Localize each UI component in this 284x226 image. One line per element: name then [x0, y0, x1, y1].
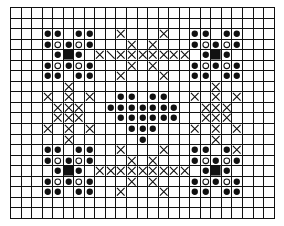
grid-cell: [21, 7, 32, 18]
grid-cell: [221, 70, 232, 81]
grid-cell: [31, 134, 42, 145]
grid-cell: [147, 28, 158, 39]
grid-cell: [168, 81, 179, 92]
grid-cell: [263, 176, 274, 187]
grid-cell: [126, 60, 137, 71]
grid-cell: [126, 39, 137, 50]
grid-cell: [210, 28, 221, 39]
grid-cell: [210, 102, 221, 113]
grid-cell: [189, 112, 200, 123]
grid-cell: [168, 102, 179, 113]
grid-cell: [147, 70, 158, 81]
grid-cell: [263, 165, 274, 176]
grid-cell: [84, 134, 95, 145]
grid-cell: [73, 28, 84, 39]
grid-cell: [210, 60, 221, 71]
grid-cell: [94, 102, 105, 113]
grid-cell: [42, 70, 53, 81]
grid-cell: [221, 112, 232, 123]
grid-cell: [84, 28, 95, 39]
grid-cell: [221, 60, 232, 71]
grid-cell: [221, 49, 232, 60]
grid-cell: [137, 81, 148, 92]
grid-cell: [10, 60, 21, 71]
grid-cell: [84, 91, 95, 102]
grid-cell: [126, 7, 137, 18]
grid-cell: [147, 39, 158, 50]
grid-cell: [189, 155, 200, 166]
grid-cell: [21, 155, 32, 166]
grid-cell: [84, 60, 95, 71]
grid-cell: [242, 91, 253, 102]
grid-cell: [21, 134, 32, 145]
grid-cell: [42, 134, 53, 145]
grid-cell: [115, 176, 126, 187]
grid-cell: [52, 18, 63, 29]
grid-cell: [84, 165, 95, 176]
grid-cell: [21, 123, 32, 134]
grid-cell: [21, 49, 32, 60]
grid-cell: [73, 39, 84, 50]
grid-cell: [253, 134, 264, 145]
grid-cell: [231, 123, 242, 134]
grid-cell: [52, 186, 63, 197]
grid-cell: [21, 39, 32, 50]
grid-cell: [105, 49, 116, 60]
grid-cell: [158, 39, 169, 50]
grid-cell: [263, 155, 274, 166]
grid-cell: [168, 60, 179, 71]
grid-cell: [126, 102, 137, 113]
grid-cell: [63, 144, 74, 155]
grid-cell: [31, 28, 42, 39]
grid-cell: [21, 28, 32, 39]
grid-cell: [105, 7, 116, 18]
grid-cell: [210, 7, 221, 18]
grid-cell: [221, 39, 232, 50]
grid-cell: [21, 144, 32, 155]
grid-cell: [73, 112, 84, 123]
grid-cell: [210, 18, 221, 29]
grid-cell: [210, 207, 221, 218]
grid-cell: [158, 176, 169, 187]
grid-cell: [210, 112, 221, 123]
grid-cell: [94, 134, 105, 145]
grid-cell: [63, 60, 74, 71]
grid-cell: [221, 18, 232, 29]
grid-cell: [31, 123, 42, 134]
grid-cell: [105, 207, 116, 218]
grid-cell: [200, 155, 211, 166]
grid-cell: [73, 134, 84, 145]
grid-cell: [189, 102, 200, 113]
stitch-pattern-grid: [10, 7, 275, 219]
grid-cell: [115, 28, 126, 39]
grid-cell: [221, 81, 232, 92]
grid-cell: [200, 81, 211, 92]
grid-cell: [147, 7, 158, 18]
grid-cell: [158, 123, 169, 134]
grid-cell: [31, 60, 42, 71]
grid-cell: [31, 81, 42, 92]
grid-cell: [231, 165, 242, 176]
grid-cell: [10, 81, 21, 92]
grid-cell: [158, 112, 169, 123]
grid-cell: [263, 197, 274, 208]
grid-cell: [137, 207, 148, 218]
grid-cell: [63, 155, 74, 166]
grid-cell: [137, 49, 148, 60]
grid-cell: [63, 207, 74, 218]
grid-cell: [168, 186, 179, 197]
grid-cell: [168, 165, 179, 176]
grid-cell: [253, 49, 264, 60]
grid-cell: [231, 49, 242, 60]
grid-cell: [179, 91, 190, 102]
grid-cell: [200, 134, 211, 145]
grid-cell: [231, 91, 242, 102]
grid-cell: [263, 207, 274, 218]
grid-cell: [126, 70, 137, 81]
grid-cell: [10, 91, 21, 102]
grid-cell: [63, 123, 74, 134]
grid-cell: [158, 49, 169, 60]
grid-cell: [147, 91, 158, 102]
grid-cell: [210, 186, 221, 197]
grid-cell: [84, 102, 95, 113]
